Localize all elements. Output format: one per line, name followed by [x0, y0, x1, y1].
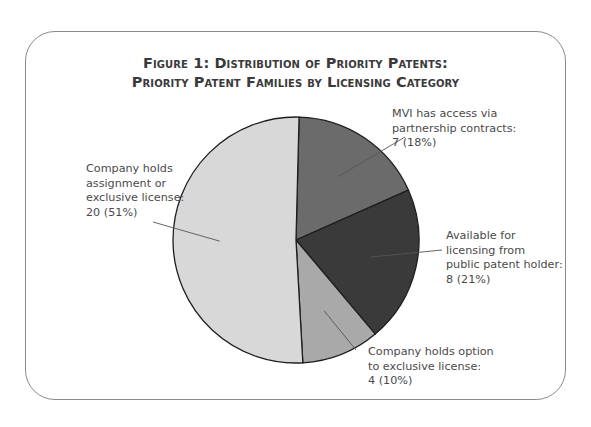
- slice-label-assignment: Company holds assignment or exclusive li…: [86, 162, 184, 220]
- pie-slice-assignment: [173, 117, 303, 363]
- slice-label-public-holder: Available for licensing from public pate…: [446, 229, 563, 287]
- slice-label-partnership: MVI has access via partnership contracts…: [392, 107, 516, 151]
- slice-label-option: Company holds option to exclusive licens…: [368, 345, 494, 389]
